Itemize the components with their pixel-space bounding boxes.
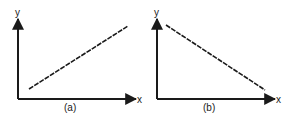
panel-a-x-label: x <box>137 94 142 105</box>
panel-a-data-line <box>29 26 128 89</box>
panel-b-data-line <box>166 25 265 90</box>
panel-a: y x (a) <box>15 7 142 113</box>
panel-b: y x (b) <box>154 7 281 113</box>
panel-b-x-label: x <box>276 94 281 105</box>
panel-b-caption: (b) <box>203 102 215 113</box>
diagram-canvas: y x (a) y x (b) <box>0 0 291 117</box>
panel-a-caption: (a) <box>64 102 76 113</box>
panel-b-y-label: y <box>154 7 159 18</box>
panel-a-y-label: y <box>15 7 20 18</box>
